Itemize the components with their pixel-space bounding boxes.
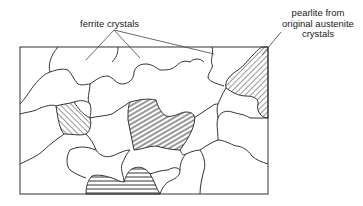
pearlite-region-bottom (86, 167, 160, 194)
label-pearlite-line-3: crystals (275, 29, 361, 40)
label-pearlite-line-1: pearlite from (275, 8, 361, 19)
label-pearlite: pearlite from original austenite crystal… (275, 8, 361, 40)
pearlite-regions (56, 47, 268, 194)
label-ferrite-crystals: ferrite crystals (80, 19, 139, 30)
leader-ferrite-1 (86, 30, 114, 60)
pearlite-region-center (128, 99, 195, 150)
leader-lines (86, 30, 281, 60)
leader-ferrite-2 (114, 30, 140, 58)
pearlite-region-top-right (226, 47, 268, 118)
leader-ferrite-3 (114, 30, 214, 54)
pearlite-region-left (56, 102, 91, 135)
